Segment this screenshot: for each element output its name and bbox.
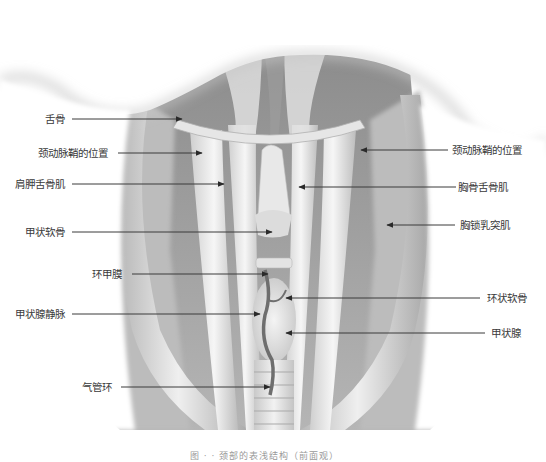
label-cricoid-cartilage: 环状软骨: [487, 292, 527, 304]
label-thyroid-vein: 甲状腺静脉: [15, 308, 65, 320]
label-thyroid-gland: 甲状腺: [491, 327, 521, 339]
label-thyroid-cartilage: 甲状软骨: [25, 226, 65, 238]
thyroid-gland: [252, 278, 296, 362]
label-sternocleidomastoid: 胸锁乳突肌: [460, 219, 510, 231]
label-carotid-sheath-right: 颈动脉鞘的位置: [452, 144, 522, 156]
label-tracheal-ring: 气管环: [82, 381, 112, 393]
label-carotid-sheath-left: 颈动脉鞘的位置: [38, 147, 108, 159]
label-sternohyoid: 胸骨舌骨肌: [458, 181, 508, 193]
cricoid-cartilage: [256, 258, 292, 268]
label-omohyoid: 肩胛舌骨肌: [15, 178, 65, 190]
label-hyoid: 舌骨: [45, 113, 65, 125]
figure-caption: 图 · · 颈部的表浅结构（前面观）: [190, 449, 339, 462]
label-cricothyroid-membrane: 环甲膜: [92, 268, 122, 280]
